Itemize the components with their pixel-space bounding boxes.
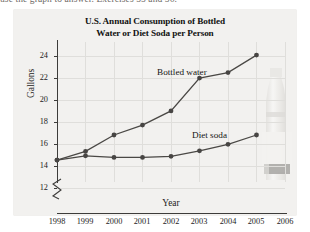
- series-label-diet-soda: Diet soda: [192, 130, 227, 140]
- x-axis-title: Year: [57, 198, 285, 208]
- data-point-diet-soda-2005: [254, 133, 259, 138]
- gridline-x-2006: [285, 42, 286, 182]
- y-tick-label-24: 24: [32, 51, 48, 60]
- data-series-layer: [57, 42, 285, 187]
- y-tick-label-12: 12: [32, 183, 48, 192]
- data-point-diet-soda-1998: [55, 158, 60, 163]
- scanned-page-text: use the graph to answer. Exercises 55 an…: [0, 0, 310, 6]
- y-tick-label-16: 16: [32, 139, 48, 148]
- y-tick-label-14: 14: [32, 161, 48, 170]
- data-point-diet-soda-2002: [169, 154, 174, 159]
- data-point-diet-soda-2004: [226, 142, 231, 147]
- plot-area: 24 22 20 18 16 14 12 1998 1999 2000 2001…: [57, 42, 285, 182]
- data-point-diet-soda-1999: [83, 153, 88, 158]
- chart-figure-panel: U.S. Annual Consumption of Bottled Water…: [14, 10, 296, 215]
- data-point-bottled-water-2002: [169, 109, 174, 114]
- x-axis-line: [57, 213, 287, 214]
- data-point-bottled-water-2001: [140, 123, 145, 128]
- y-tick-label-18: 18: [32, 117, 48, 126]
- data-point-diet-soda-2001: [140, 155, 145, 160]
- axis-break-symbol: [50, 178, 66, 200]
- data-point-bottled-water-2005: [254, 53, 259, 58]
- gridline-y-12: [57, 188, 285, 189]
- y-axis-title: Gallons: [26, 69, 36, 98]
- chart-title: U.S. Annual Consumption of Bottled Water…: [14, 16, 296, 39]
- chart-title-line-2: Water or Diet Soda per Person: [96, 28, 213, 38]
- x-tick-label-2006: 2006: [268, 217, 302, 226]
- data-point-bottled-water-2004: [226, 70, 231, 75]
- chart-title-line-1: U.S. Annual Consumption of Bottled: [85, 16, 225, 26]
- data-point-diet-soda-2003: [197, 148, 202, 153]
- data-point-bottled-water-1999: [83, 149, 88, 154]
- series-label-bottled-water: Bottled water: [157, 67, 207, 77]
- data-point-diet-soda-2000: [112, 155, 117, 160]
- data-point-bottled-water-2000: [112, 133, 117, 138]
